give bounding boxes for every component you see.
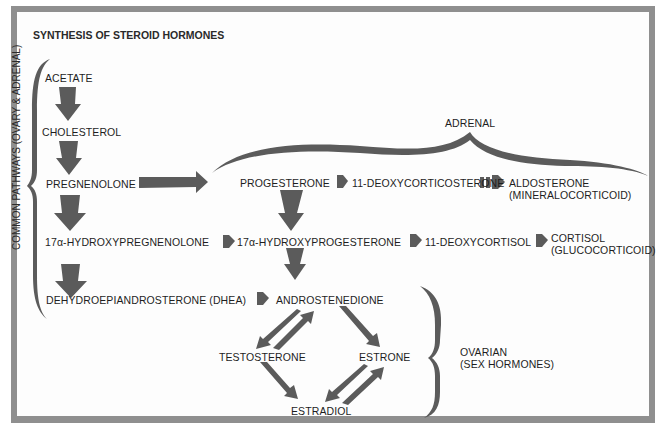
arrow-androstenedione-estrone [339,306,380,347]
arrow-pregnenolone-progesterone [139,171,208,193]
node-hydroxypregnenolone: 17α-HYDROXYPREGNENOLONE [45,236,209,248]
node-cholesterol: CHOLESTEROL [42,126,121,138]
node-estradiol: ESTRADIOL [291,405,351,417]
node-estrone: ESTRONE [359,351,410,363]
page-title: SYNTHESIS OF STEROID HORMONES [33,29,224,41]
arrow-acetate-cholesterol [55,87,81,121]
ovarian-label: OVARIAN [460,346,507,358]
node-deoxycortisol: 11-DEOXYCORTISOL [425,236,531,248]
node-androstenedione: ANDROSTENEDIONE [276,294,384,306]
arrow-progesterone-deoxycorticosterone [337,175,348,188]
adrenal-brace [212,132,648,176]
node-aldosterone-note: (MINERALOCORTICOID) [509,189,631,201]
node-deoxycorticosterone: 11-DEOXYCORTICOSTERONE [352,177,504,189]
arrow-testosterone-estradiol [260,362,298,399]
node-cortisol: CORTISOL [551,232,605,244]
arrow-hydroxyprogesterone-androstenedione [284,248,306,280]
arrow-pregnenolone-hydroxypregnenolone [54,195,86,231]
ovarian-brace [420,286,441,418]
arrow-cholesterol-pregnenolone [56,141,82,175]
node-pregnenolone: PREGNENOLONE [46,178,136,190]
arrow-deoxycortisol-cortisol [536,234,548,247]
arrow-estradiol-estrone [342,367,384,405]
adrenal-label: ADRENAL [445,117,495,129]
node-acetate: ACETATE [45,72,93,84]
arrow-hydroxyprogesterone-deoxycortisol [410,234,422,247]
node-aldosterone: ALDOSTERONE [509,177,589,189]
node-progesterone: PROGESTERONE [240,177,330,189]
common-pathways-label: COMMON PATHWAYS (OVARY & ADRENAL) [11,45,22,250]
arrow-dhea-androstenedione [257,292,269,305]
arrow-estrone-estradiol [325,364,368,402]
ovarian-sub-label: (SEX HORMONES) [460,358,554,370]
pathway-graphics [0,0,667,439]
arrow-hydroxypregnenolone-hydroxyprogesterone [223,235,235,248]
arrow-hydroxypregnenolone-dhea [55,264,87,298]
node-testosterone: TESTOSTERONE [219,351,306,363]
node-cortisol-note: (GLUCOCORTICOID) [551,244,656,256]
node-hydroxyprogesterone: 17α-HYDROXYPROGESTERONE [237,236,401,248]
arrow-progesterone-hydroxyprogesterone [278,190,304,231]
node-dhea: DEHYDROEPIANDROSTERONE (DHEA) [46,294,246,306]
